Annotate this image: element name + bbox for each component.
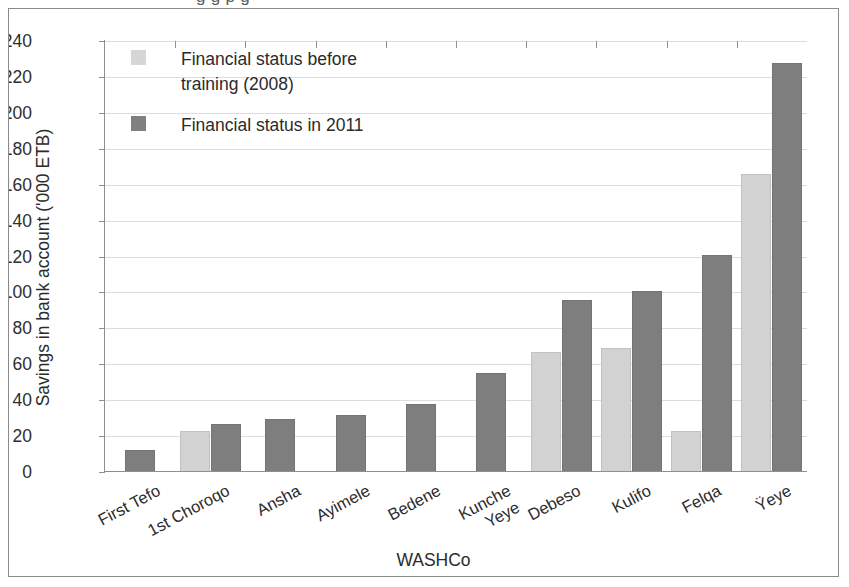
bar-2008[interactable] [671,431,701,472]
y-tick-label: 0 [8,462,32,483]
bar-2011[interactable] [265,419,295,472]
x-tick-label: Felqa [679,481,724,517]
y-tick-label: 100 [8,282,32,303]
y-tick-label: 120 [8,246,32,267]
y-tick-label: 200 [8,102,32,123]
bar-group [667,41,737,472]
legend-swatch-2011-icon [131,116,146,131]
cut-off-caption-text: g g p g [196,0,250,7]
legend-label-2008: Financial status beforetraining (2008) [181,47,461,97]
bar-2011[interactable] [336,415,366,472]
y-tick-label: 240 [8,31,32,52]
x-tick-label: Ÿeye [753,481,795,515]
x-tick-label: Debeso [525,481,584,524]
x-tick-label: KuncheYeye [456,481,523,541]
bar-2008[interactable] [601,348,631,472]
x-axis-baseline [105,471,807,472]
y-tick-label: 160 [8,174,32,195]
bar-group [737,41,807,472]
x-axis-title: WASHCo [9,550,839,571]
y-tick-label: 140 [8,210,32,231]
y-tick-label: 180 [8,138,32,159]
bar-2008[interactable] [180,431,210,472]
y-tick-label: 60 [8,354,32,375]
chart-legend: Financial status beforetraining (2008) F… [131,47,461,155]
bar-2011[interactable] [632,291,662,472]
bar-2011[interactable] [211,424,241,472]
y-axis-title: Savings in bank account ('000 ETB) [33,68,54,468]
x-tick-label: Kulifo [609,481,654,517]
x-tick-label: Bedene [385,481,444,524]
bar-group [456,41,526,472]
x-tick-mark [737,41,738,48]
bar-2008[interactable] [741,174,771,472]
bar-2011[interactable] [125,450,155,472]
legend-swatch-2008-icon [131,50,146,65]
x-tick-label: Ansha [253,481,303,520]
x-axis-labels: First Tefo1st ChoroqoAnshaAyimeleBedeneK… [105,475,807,535]
x-tick-mark [596,41,597,48]
y-tick-mark [99,472,105,473]
bar-2008[interactable] [531,352,561,472]
bar-2011[interactable] [772,63,802,472]
bar-2011[interactable] [562,300,592,472]
x-tick-label: Ayimele [313,481,373,525]
y-tick-label: 80 [8,318,32,339]
y-tick-label: 220 [8,66,32,87]
x-tick-mark [667,41,668,48]
bar-group [596,41,666,472]
legend-item: Financial status beforetraining (2008) [131,47,461,97]
bar-2011[interactable] [406,404,436,472]
y-tick-label: 40 [8,390,32,411]
bar-2011[interactable] [476,373,506,472]
y-tick-label: 20 [8,426,32,447]
chart-frame: Savings in bank account ('000 ETB) 02040… [8,8,839,577]
legend-item: Financial status in 2011 [131,113,461,139]
x-tick-mark [526,41,527,48]
bar-2011[interactable] [702,255,732,472]
legend-label-2011: Financial status in 2011 [181,113,461,138]
bar-group [526,41,596,472]
